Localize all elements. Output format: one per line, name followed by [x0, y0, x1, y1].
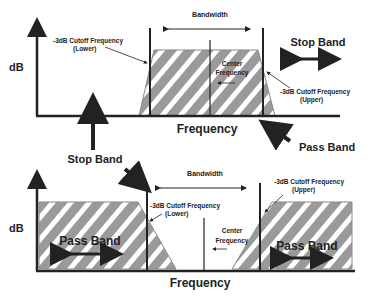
- bottom-left-pass-band-label: Pass Band: [59, 234, 120, 248]
- top-lower-cutoff-label-1: -3dB Cutoff Frequency: [53, 37, 123, 45]
- bottom-center-label-2: Frequency: [216, 237, 249, 245]
- top-pass-band-label: Pass Band: [299, 141, 355, 153]
- top-x-axis-label: Frequency: [177, 122, 238, 136]
- middle-stop-band: Stop Band: [68, 100, 147, 188]
- bottom-band-stop-chart: Bandwidth dB Frequency -3dB Cutoff Frequ…: [9, 170, 355, 290]
- bottom-lower-cutoff-pointer: [150, 214, 162, 221]
- top-lower-cutoff-pointer: [105, 47, 147, 63]
- bottom-lower-cutoff-label-1: -3dB Cutoff Frequency: [150, 202, 220, 210]
- top-upper-cutoff-label-1: -3dB Cutoff Frequency: [280, 88, 350, 96]
- top-center-label-1: Center: [222, 60, 243, 67]
- bottom-bandwidth-label: Bandwidth: [187, 170, 223, 177]
- bottom-upper-cutoff-label-1: -3dB Cutoff Frequency: [274, 178, 344, 186]
- top-upper-cutoff-label-2: (Upper): [300, 96, 323, 104]
- bottom-upper-cutoff-label-2: (Upper): [292, 186, 315, 194]
- top-y-axis-label: dB: [9, 61, 24, 73]
- bottom-y-axis-label: dB: [9, 222, 24, 234]
- top-center-label-2: Frequency: [216, 69, 249, 77]
- bottom-center-label-1: Center: [222, 227, 243, 234]
- top-bandwidth-label: Bandwidth: [192, 11, 228, 18]
- top-upper-cutoff-pointer: [267, 72, 290, 88]
- bottom-lower-cutoff-label-2: (Lower): [165, 210, 188, 218]
- top-lower-cutoff-label-2: (Lower): [73, 45, 96, 53]
- band-pass-band-stop-diagram: Bandwidth dB Frequency -3dB Cutoff Frequ…: [0, 0, 375, 296]
- top-band-pass-chart: Bandwidth dB Frequency -3dB Cutoff Frequ…: [9, 11, 355, 153]
- middle-stop-band-down-arrow: [125, 169, 146, 188]
- top-pass-band-arrow: [265, 124, 290, 141]
- bottom-x-axis-label: Frequency: [170, 276, 231, 290]
- top-passband-region: [139, 50, 275, 116]
- bottom-right-pass-band-label: Pass Band: [276, 239, 337, 253]
- middle-stop-band-label: Stop Band: [68, 153, 123, 165]
- top-stop-band-label: Stop Band: [291, 36, 346, 48]
